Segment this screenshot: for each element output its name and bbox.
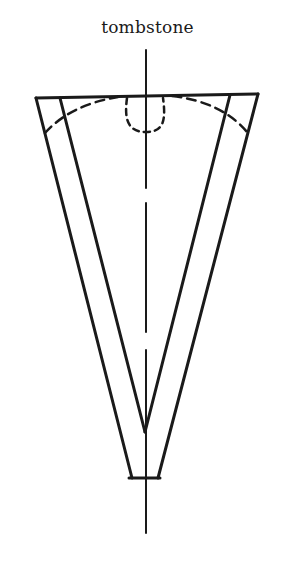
dashed-arc-right <box>172 96 247 132</box>
inner-right-edge <box>145 95 230 432</box>
inner-left-edge <box>60 98 145 432</box>
outer-left-edge <box>36 98 132 478</box>
dashed-arc-left <box>45 97 118 133</box>
tombstone-diagram <box>0 0 295 567</box>
outer-right-edge <box>158 94 258 478</box>
top-edge <box>36 94 258 98</box>
